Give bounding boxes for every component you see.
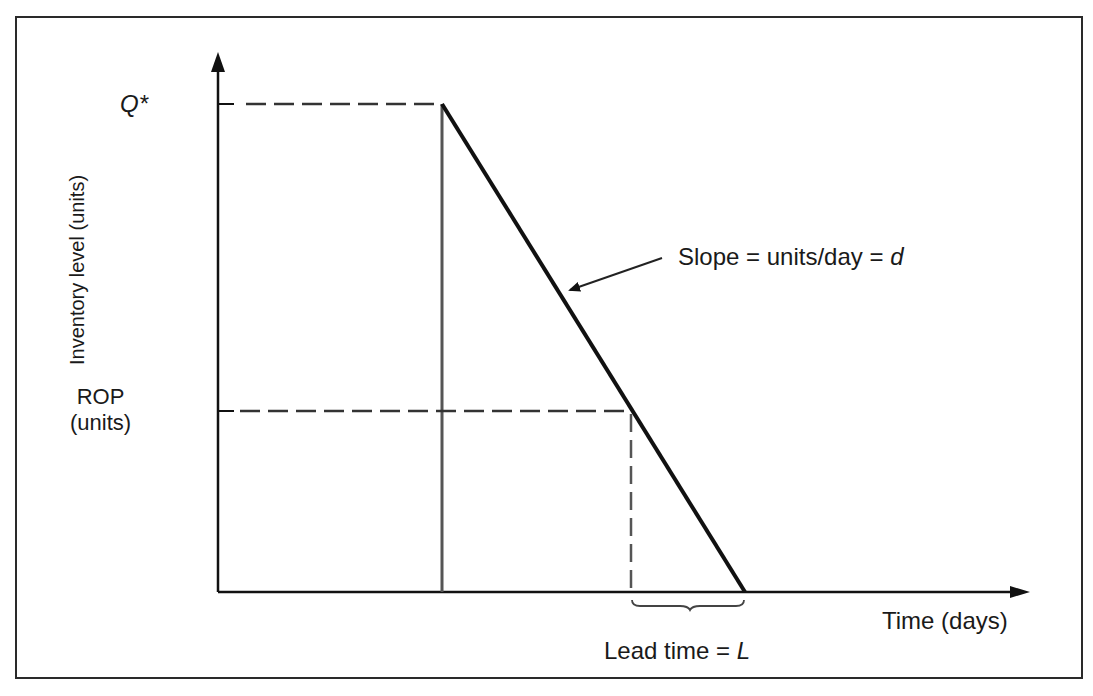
slope-text: Slope = units/day = <box>678 243 890 270</box>
slope-label: Slope = units/day = d <box>678 243 904 271</box>
inventory-diagram <box>0 0 1093 696</box>
x-axis-label: Time (days) <box>882 607 1008 635</box>
q-star-label: Q* <box>120 90 148 118</box>
rop-label: ROP (units) <box>70 384 131 436</box>
lead-time-text: Lead time = <box>604 637 737 664</box>
lead-time-label: Lead time = L <box>604 637 750 665</box>
slope-arrow <box>570 258 662 290</box>
rop-label-line1: ROP <box>70 384 131 410</box>
lead-time-variable: L <box>737 637 750 664</box>
rop-label-line2: (units) <box>70 410 131 436</box>
rop-guide <box>218 411 631 592</box>
y-axis <box>211 52 225 592</box>
depletion-slope <box>442 104 745 592</box>
slope-variable: d <box>890 243 903 270</box>
y-axis-label: Inventory level (units) <box>66 175 89 365</box>
lead-time-brace <box>632 600 744 610</box>
x-axis <box>218 586 1030 598</box>
